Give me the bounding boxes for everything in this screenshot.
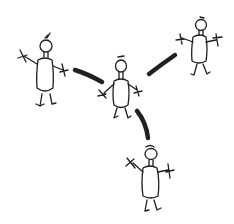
sketch-diagram <box>0 0 234 224</box>
stick-figure-center <box>98 56 142 118</box>
connector-center-topright <box>149 55 175 74</box>
stick-figure-top-right <box>176 17 222 75</box>
stick-figure-left <box>18 33 68 106</box>
stick-figure-bottom <box>126 146 174 212</box>
connector-center-left <box>75 70 102 82</box>
connector-center-bottom <box>137 111 148 138</box>
